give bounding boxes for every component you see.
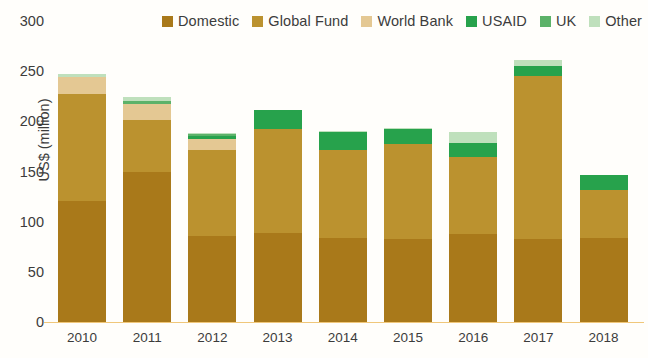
bar-group-2017[interactable]: [514, 321, 562, 322]
bar-segment-2018-usaid[interactable]: [580, 175, 628, 190]
y-tick-300: 300: [10, 13, 44, 29]
x-tick-2011: 2011: [114, 330, 180, 345]
x-axis-tick-labels: 201020112012201320142015201620172018: [0, 330, 648, 352]
bar-segment-2015-other[interactable]: [384, 128, 432, 129]
bar-segment-2011-domestic[interactable]: [123, 172, 171, 323]
bar-group-2010[interactable]: [58, 321, 106, 322]
x-axis-baseline: [44, 322, 644, 323]
x-tick-2015: 2015: [375, 330, 441, 345]
bar-segment-2014-other[interactable]: [319, 131, 367, 132]
bar-segment-2012-domestic[interactable]: [188, 236, 236, 322]
bar-group-2016[interactable]: [449, 321, 497, 322]
x-tick-2017: 2017: [505, 330, 571, 345]
bar-segment-2010-domestic[interactable]: [58, 201, 106, 322]
y-axis-title: US$ (million): [36, 80, 52, 200]
bar-group-2015[interactable]: [384, 321, 432, 322]
bar-segment-2016-global-fund[interactable]: [449, 157, 497, 233]
bar-segment-2015-domestic[interactable]: [384, 239, 432, 322]
bar-segment-2017-usaid[interactable]: [514, 66, 562, 76]
bar-segment-2011-world-bank[interactable]: [123, 104, 171, 120]
x-tick-2018: 2018: [571, 330, 637, 345]
bar-segment-2012-global-fund[interactable]: [188, 150, 236, 235]
y-tick-100: 100: [10, 214, 44, 230]
bar-segment-2013-usaid[interactable]: [254, 110, 302, 129]
x-tick-2013: 2013: [245, 330, 311, 345]
bar-segment-2011-other[interactable]: [123, 97, 171, 101]
bar-segment-2014-usaid[interactable]: [319, 132, 367, 150]
bar-segment-2012-other[interactable]: [188, 133, 236, 134]
x-tick-2014: 2014: [310, 330, 376, 345]
bar-segment-2012-usaid[interactable]: [188, 136, 236, 139]
bar-segment-2015-usaid[interactable]: [384, 129, 432, 144]
bar-group-2013[interactable]: [254, 321, 302, 322]
bar-segment-2014-global-fund[interactable]: [319, 150, 367, 237]
y-tick-0: 0: [10, 314, 44, 330]
bar-segment-2017-other[interactable]: [514, 60, 562, 66]
bar-group-2012[interactable]: [188, 321, 236, 322]
bar-segment-2013-global-fund[interactable]: [254, 129, 302, 232]
x-tick-2012: 2012: [179, 330, 245, 345]
bar-segment-2018-domestic[interactable]: [580, 238, 628, 322]
bar-segment-2011-global-fund[interactable]: [123, 120, 171, 171]
bar-segment-2016-other[interactable]: [449, 132, 497, 143]
bar-segment-2017-domestic[interactable]: [514, 239, 562, 322]
y-tick-50: 50: [10, 264, 44, 280]
bar-segment-2010-other[interactable]: [58, 74, 106, 77]
bar-segment-2014-domestic[interactable]: [319, 238, 367, 322]
bar-segment-2013-domestic[interactable]: [254, 233, 302, 322]
x-tick-2010: 2010: [49, 330, 115, 345]
bar-group-2018[interactable]: [580, 321, 628, 322]
bar-segment-2012-uk[interactable]: [188, 134, 236, 136]
bar-segment-2010-global-fund[interactable]: [58, 94, 106, 200]
bar-segment-2018-global-fund[interactable]: [580, 190, 628, 238]
bar-group-2011[interactable]: [123, 321, 171, 322]
bar-segment-2016-usaid[interactable]: [449, 143, 497, 157]
bar-group-2014[interactable]: [319, 321, 367, 322]
bar-segment-2010-world-bank[interactable]: [58, 77, 106, 94]
bar-segment-2012-world-bank[interactable]: [188, 139, 236, 150]
x-tick-2016: 2016: [440, 330, 506, 345]
bar-segment-2017-global-fund[interactable]: [514, 76, 562, 239]
bar-segment-2016-domestic[interactable]: [449, 234, 497, 322]
bar-segment-2015-global-fund[interactable]: [384, 144, 432, 238]
y-tick-250: 250: [10, 63, 44, 79]
stacked-bar-chart: DomesticGlobal FundWorld BankUSAIDUKOthe…: [0, 0, 648, 358]
bar-segment-2011-uk[interactable]: [123, 101, 171, 104]
